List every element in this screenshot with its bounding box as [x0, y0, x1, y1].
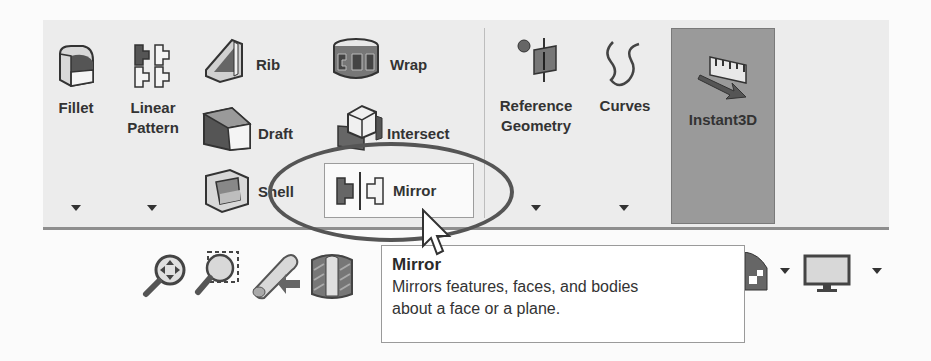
- linear-pattern-icon: [133, 41, 173, 89]
- display-style-icon[interactable]: [745, 252, 769, 292]
- tooltip-description-line2: about a face or a plane.: [392, 298, 744, 320]
- intersect-button[interactable]: Intersect: [332, 100, 467, 154]
- shell-label: Shell: [258, 183, 294, 200]
- mirror-icon: [335, 170, 391, 212]
- shell-button[interactable]: Shell: [202, 166, 302, 216]
- mouse-cursor-icon: [421, 208, 455, 258]
- curves-icon: [605, 38, 645, 88]
- intersect-label: Intersect: [387, 125, 450, 142]
- fillet-icon: [57, 42, 95, 88]
- shell-icon: [202, 168, 250, 214]
- instant3d-label: Instant3D: [672, 111, 774, 128]
- section-view-icon[interactable]: [310, 250, 354, 300]
- wrap-button[interactable]: Wrap: [332, 36, 452, 86]
- reference-geometry-icon: [514, 36, 560, 84]
- reference-geometry-label-line1: Reference: [492, 97, 580, 114]
- linear-pattern-dropdown-arrow[interactable]: [147, 205, 157, 211]
- rib-button[interactable]: Rib: [202, 36, 292, 86]
- mirror-tooltip: Mirror Mirrors features, faces, and bodi…: [381, 245, 745, 343]
- intersect-icon: [334, 102, 384, 152]
- fillet-dropdown-arrow[interactable]: [71, 205, 81, 211]
- monitor-icon[interactable]: [803, 254, 851, 294]
- reference-geometry-label-line2: Geometry: [492, 117, 580, 134]
- rib-icon: [202, 36, 248, 84]
- mirror-label: Mirror: [393, 182, 436, 199]
- display-style-dropdown-arrow[interactable]: [780, 268, 790, 274]
- previous-view-icon[interactable]: [250, 250, 302, 300]
- draft-icon: [202, 104, 252, 152]
- reference-geometry-dropdown-arrow[interactable]: [531, 205, 541, 211]
- instant3d-button[interactable]: Instant3D: [671, 28, 775, 224]
- fillet-button[interactable]: Fillet: [48, 38, 104, 138]
- curves-label: Curves: [590, 97, 660, 114]
- tooltip-description-line1: Mirrors features, faces, and bodies: [392, 276, 744, 298]
- curves-button[interactable]: Curves: [590, 36, 660, 136]
- view-settings-dropdown-arrow[interactable]: [872, 268, 882, 274]
- draft-button[interactable]: Draft: [202, 104, 302, 156]
- reference-geometry-button[interactable]: Reference Geometry: [492, 36, 580, 136]
- zoom-to-area-icon[interactable]: [192, 250, 242, 300]
- zoom-to-fit-icon[interactable]: [140, 252, 188, 300]
- curves-dropdown-arrow[interactable]: [619, 205, 629, 211]
- linear-pattern-label-line1: Linear: [118, 99, 188, 116]
- wrap-icon: [332, 36, 382, 84]
- wrap-label: Wrap: [390, 56, 427, 73]
- ribbon-group-separator: [484, 28, 485, 218]
- instant3d-icon: [696, 53, 752, 103]
- linear-pattern-label-line2: Pattern: [118, 119, 188, 136]
- linear-pattern-button[interactable]: Linear Pattern: [118, 38, 188, 138]
- fillet-label: Fillet: [48, 99, 104, 116]
- draft-label: Draft: [258, 125, 293, 142]
- rib-label: Rib: [256, 56, 280, 73]
